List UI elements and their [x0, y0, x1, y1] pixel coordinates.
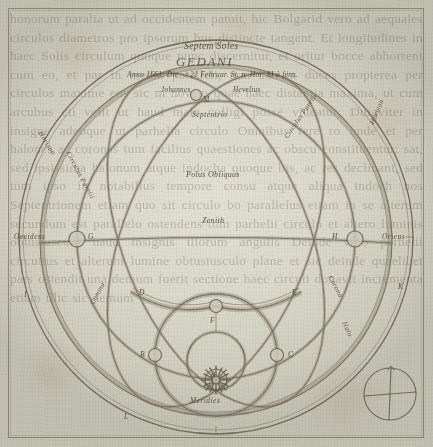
node-upper-sun: [191, 90, 202, 101]
key-node-east: C: [288, 350, 293, 359]
node-parhelion-east-lower: [271, 349, 284, 362]
node-parhelion-west: [69, 231, 85, 247]
node-parhelion-west-lower: [149, 349, 162, 362]
direction-south-label: Meridies: [190, 396, 220, 405]
plate-title-line1: Septem Soles: [184, 41, 239, 51]
key-node-upper-left: D: [139, 288, 144, 297]
key-node-outer-left: I: [24, 290, 27, 299]
direction-west-label: Occidens: [14, 232, 46, 241]
key-sun-true: A: [211, 370, 216, 379]
key-node-top: M: [203, 95, 209, 104]
polus-obliquus-label: Polus Obliquus: [186, 170, 240, 179]
compass-rose: [364, 366, 416, 420]
direction-north-label: Septentrio: [192, 110, 227, 119]
plate-title-line2: GEDANI: [176, 54, 233, 70]
author-first-name: Johannes: [161, 86, 191, 94]
key-node-zenith: F: [210, 316, 215, 325]
node-parhelion-east: [347, 231, 363, 247]
key-node-outer-right: K: [398, 282, 403, 291]
plate-date-line: Anno 1661. Die ☽ 21 Februar. St. n. Hor.…: [127, 70, 298, 79]
key-node-lower: L: [124, 412, 128, 421]
node-top-halo: [210, 300, 223, 313]
author-last-name: Hevelius: [233, 86, 261, 94]
engraving-plate: honorum paralia ut ad occidentem patuit,…: [0, 0, 433, 447]
key-node-arc-right: H: [332, 232, 337, 241]
key-node-upper-right: E: [292, 288, 297, 297]
zenith-label: Zenith: [202, 216, 224, 225]
direction-east-label: Oriens: [382, 232, 405, 241]
key-node-arc-left: G: [88, 232, 93, 241]
sun-symbol: [202, 366, 230, 394]
key-node-west: B: [140, 350, 145, 359]
